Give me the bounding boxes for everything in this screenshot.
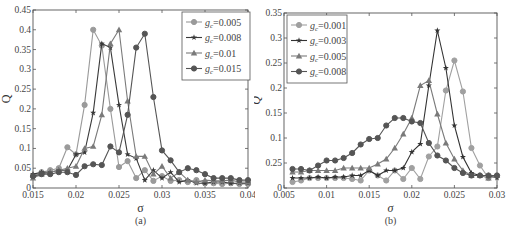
data-point-marker-triangle-icon: [159, 163, 165, 169]
data-point-marker-circle-icon: [426, 140, 431, 145]
data-point-marker-circle-icon: [125, 159, 130, 164]
data-point-marker-circle-icon: [350, 150, 355, 155]
line-chart-a: 0.0150.020.0250.030.0350.0400.050.10.150…: [0, 0, 255, 228]
data-point-marker-star-icon: [125, 151, 131, 157]
x-axis-label: σ: [388, 201, 395, 215]
data-point-marker-circle-icon: [418, 120, 423, 125]
data-point-marker-triangle-icon: [426, 77, 432, 83]
x-tick-label: 0.01: [318, 190, 335, 200]
y-tick-label: 0: [26, 183, 31, 193]
data-point-marker-circle-icon: [307, 168, 312, 173]
y-tick-label: 0.3: [270, 33, 282, 43]
data-point-marker-star-icon: [460, 154, 466, 160]
data-point-marker-circle-icon: [367, 136, 372, 141]
data-point-marker-triangle-icon: [73, 163, 79, 169]
data-point-marker-circle-icon: [151, 94, 156, 99]
y-tick-label: 0.05: [14, 163, 31, 173]
x-tick-label: 0.03: [489, 190, 506, 200]
data-point-marker-circle-icon: [125, 112, 130, 117]
data-point-marker-circle-icon: [116, 164, 121, 169]
data-point-marker-circle-icon: [177, 170, 182, 175]
data-point-marker-circle-icon: [290, 166, 295, 171]
data-point-marker-circle-icon: [211, 176, 216, 181]
data-point-marker-circle-icon: [108, 144, 113, 149]
data-point-marker-circle-icon: [99, 162, 104, 167]
chart-panel-b: 0.0050.010.0150.020.0250.0300.250.10.150…: [254, 0, 509, 228]
data-point-marker-circle-icon: [91, 162, 96, 167]
data-point-marker-star-icon: [400, 165, 406, 171]
data-point-marker-circle-icon: [435, 144, 440, 149]
legend-marker-circle-icon: [296, 22, 301, 27]
data-point-marker-circle-icon: [409, 165, 414, 170]
line-chart-b: 0.0050.010.0150.020.0250.0300.250.10.150…: [254, 0, 509, 228]
data-point-marker-triangle-icon: [375, 161, 381, 167]
data-point-marker-circle-icon: [65, 145, 70, 150]
y-tick-label: 0.35: [265, 8, 282, 18]
data-point-marker-circle-icon: [469, 173, 474, 178]
y-tick-label: 0.35: [14, 45, 31, 55]
data-point-marker-circle-icon: [350, 176, 355, 181]
data-point-marker-circle-icon: [151, 178, 156, 183]
data-point-marker-circle-icon: [460, 89, 465, 94]
data-point-marker-circle-icon: [142, 31, 147, 36]
y-tick-label: 0.3: [19, 64, 31, 74]
data-point-marker-circle-icon: [401, 176, 406, 181]
data-point-marker-circle-icon: [384, 123, 389, 128]
data-point-marker-circle-icon: [134, 45, 139, 50]
x-axis-label: σ: [137, 201, 144, 215]
y-tick-label: 0: [277, 183, 282, 193]
data-point-marker-circle-icon: [65, 170, 70, 175]
data-point-marker-circle-icon: [298, 166, 303, 171]
data-point-marker-triangle-icon: [434, 111, 440, 117]
data-point-marker-circle-icon: [142, 168, 147, 173]
data-point-marker-circle-icon: [237, 177, 242, 182]
y-tick-label: 0.45: [14, 5, 31, 15]
data-point-marker-circle-icon: [159, 148, 164, 153]
data-point-marker-circle-icon: [185, 166, 190, 171]
data-point-marker-circle-icon: [494, 173, 499, 178]
data-point-marker-circle-icon: [315, 163, 320, 168]
data-point-marker-circle-icon: [435, 153, 440, 158]
data-point-marker-circle-icon: [443, 158, 448, 163]
legend-marker-circle-icon: [191, 66, 196, 71]
y-tick-label: 0.4: [19, 25, 31, 35]
y-axis-label: Q: [0, 94, 13, 103]
data-point-marker-circle-icon: [168, 158, 173, 163]
data-point-marker-circle-icon: [108, 106, 113, 111]
y-tick-label: 0.25: [265, 158, 282, 168]
data-point-marker-circle-icon: [486, 173, 491, 178]
data-point-marker-circle-icon: [460, 170, 465, 175]
x-tick-label: 0.04: [240, 190, 255, 200]
y-tick-label: 0.15: [265, 108, 282, 118]
x-tick-label: 0.02: [68, 190, 85, 200]
data-point-marker-circle-icon: [452, 165, 457, 170]
legend: gc=0.005gc=0.008gc=0.01gc=0.015: [182, 12, 250, 80]
figure-caption: (b): [385, 215, 397, 227]
data-point-marker-circle-icon: [341, 155, 346, 160]
data-point-marker-circle-icon: [324, 158, 329, 163]
data-point-marker-circle-icon: [392, 115, 397, 120]
data-point-marker-circle-icon: [220, 176, 225, 181]
data-point-marker-circle-icon: [228, 176, 233, 181]
data-point-marker-circle-icon: [290, 179, 295, 184]
data-point-marker-triangle-icon: [116, 27, 122, 33]
legend-marker-circle-icon: [296, 69, 301, 74]
data-point-marker-triangle-icon: [451, 156, 457, 162]
y-tick-label: 0.1: [270, 133, 282, 143]
data-point-marker-circle-icon: [48, 172, 53, 177]
data-point-marker-triangle-icon: [99, 112, 105, 118]
data-point-marker-triangle-icon: [202, 177, 208, 183]
data-point-marker-circle-icon: [56, 170, 61, 175]
data-point-marker-circle-icon: [426, 154, 431, 159]
data-point-marker-circle-icon: [452, 58, 457, 63]
data-point-marker-circle-icon: [73, 172, 78, 177]
y-tick-label: 0.2: [270, 83, 282, 93]
data-point-marker-circle-icon: [82, 164, 87, 169]
data-point-marker-circle-icon: [134, 176, 139, 181]
x-tick-label: 0.015: [359, 190, 381, 200]
data-point-marker-circle-icon: [116, 150, 121, 155]
data-point-marker-triangle-icon: [417, 82, 423, 88]
data-point-marker-circle-icon: [375, 135, 380, 140]
data-point-marker-circle-icon: [82, 102, 87, 107]
x-tick-label: 0.03: [154, 190, 171, 200]
